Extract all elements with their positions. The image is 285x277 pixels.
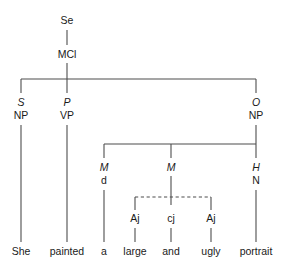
node-subject-form: NP	[14, 109, 29, 121]
word-portrait: portrait	[240, 245, 273, 257]
word-large: large	[123, 245, 147, 257]
node-object-form: NP	[249, 109, 264, 121]
node-modifier-coordination-function: M	[167, 161, 176, 173]
node-predicate-form: VP	[60, 109, 74, 121]
node-conjunction-form: cj	[167, 212, 175, 224]
word-and: and	[162, 245, 180, 257]
node-object-function: O	[252, 96, 260, 108]
node-subject-function: S	[17, 96, 24, 108]
node-se-form: Se	[61, 14, 74, 26]
word-she: She	[12, 245, 31, 257]
tree-svg-canvas: Se MCl S NP P VP O NP M d	[0, 0, 285, 277]
node-adjective-ugly-form: Aj	[206, 212, 215, 224]
node-modifier-determiner-function: M	[100, 161, 109, 173]
word-ugly: ugly	[201, 245, 221, 257]
node-adjective-large-form: Aj	[130, 212, 139, 224]
node-mcl-form: MCl	[58, 48, 77, 60]
node-head-function: H	[252, 161, 260, 173]
node-modifier-determiner-form: d	[101, 174, 107, 186]
word-painted: painted	[50, 245, 85, 257]
node-predicate-function: P	[63, 96, 70, 108]
node-head-form: N	[252, 174, 260, 186]
word-a: a	[101, 245, 107, 257]
sentence-tree-diagram: Se MCl S NP P VP O NP M d	[0, 0, 285, 277]
